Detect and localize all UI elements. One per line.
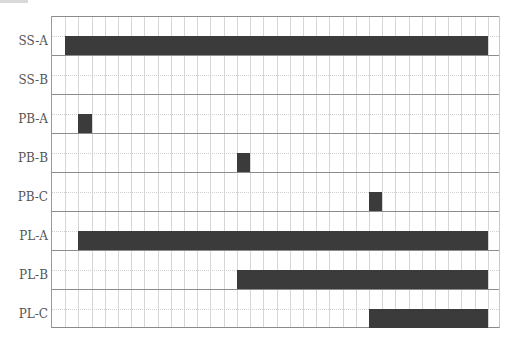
bar-pl-a bbox=[78, 231, 487, 251]
row-divider bbox=[52, 55, 499, 56]
row-label-pl-c: PL-C bbox=[0, 307, 48, 321]
row-label-pb-b: PB-B bbox=[0, 151, 48, 165]
row-divider bbox=[52, 16, 499, 17]
row-midline bbox=[52, 75, 499, 76]
row-midline bbox=[52, 153, 499, 154]
bar-pb-a bbox=[78, 114, 91, 134]
bar-pb-c bbox=[369, 192, 382, 212]
row-divider bbox=[52, 133, 499, 134]
row-label-pl-a: PL-A bbox=[0, 229, 48, 243]
row-midline bbox=[52, 114, 499, 115]
row-label-pb-c: PB-C bbox=[0, 190, 48, 204]
row-midline bbox=[52, 192, 499, 193]
row-divider bbox=[52, 94, 499, 95]
row-label-ss-b: SS-B bbox=[0, 73, 48, 87]
gantt-chart-area bbox=[51, 16, 500, 328]
row-divider bbox=[52, 289, 499, 290]
row-divider bbox=[52, 250, 499, 251]
row-label-pl-b: PL-B bbox=[0, 268, 48, 282]
bar-ss-a bbox=[65, 36, 488, 56]
bar-pl-c bbox=[369, 309, 488, 329]
bar-pl-b bbox=[237, 270, 488, 290]
row-label-pb-a: PB-A bbox=[0, 112, 48, 126]
row-label-ss-a: SS-A bbox=[0, 34, 48, 48]
bar-pb-b bbox=[237, 153, 250, 173]
row-divider bbox=[52, 211, 499, 212]
corner-strip bbox=[0, 0, 28, 3]
row-divider bbox=[52, 172, 499, 173]
